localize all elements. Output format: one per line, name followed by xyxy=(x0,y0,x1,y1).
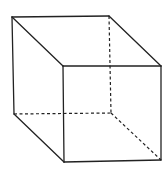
dashed-edge-back_bottom_left-to-back_bottom_right xyxy=(14,113,111,114)
solid-edge-back_top_left-to-front_top_left xyxy=(12,17,63,66)
hidden-edges xyxy=(14,16,161,160)
solid-edge-back_top_left-to-back_top_right xyxy=(12,16,109,17)
dashed-edge-back_top_right-to-back_bottom_right xyxy=(109,16,111,113)
visible-edges xyxy=(12,16,161,162)
dashed-edge-back_bottom_right-to-front_bottom_right xyxy=(111,113,161,160)
solid-edge-back_top_right-to-front_top_right xyxy=(109,16,161,66)
solid-edge-back_bottom_left-to-front_bottom_left xyxy=(14,114,64,162)
cube-diagram xyxy=(0,0,166,171)
solid-edge-back_top_left-to-back_bottom_left xyxy=(12,17,14,114)
solid-edge-front_bottom_right-to-front_bottom_left xyxy=(64,160,161,162)
